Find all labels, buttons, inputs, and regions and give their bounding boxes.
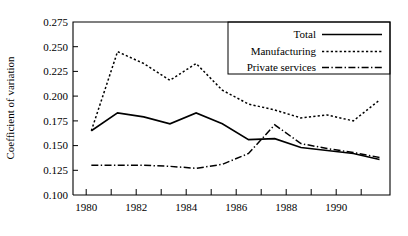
- y-tick-label: 0.100: [43, 189, 68, 201]
- legend-label-total: Total: [294, 28, 316, 40]
- data-series-group: [91, 52, 379, 169]
- y-tick-label: 0.125: [43, 164, 68, 176]
- y-axis-title: Coefficient of variation: [4, 56, 16, 160]
- series-line-manufacturing: [91, 52, 379, 131]
- y-tick-label: 0.175: [43, 115, 68, 127]
- line-chart: Coefficient of variation 0.100 0.125 0.1…: [0, 0, 408, 236]
- x-tick-label: 1982: [125, 201, 147, 213]
- y-tick-label: 0.225: [43, 65, 68, 77]
- y-tick-label: 0.200: [43, 90, 68, 102]
- y-tick-label: 0.250: [43, 41, 68, 53]
- x-tick-label: 1986: [225, 201, 248, 213]
- y-axis-ticks: [73, 47, 78, 171]
- x-axis-ticks: [86, 189, 361, 195]
- x-tick-label: 1988: [275, 201, 298, 213]
- legend-label-private-services: Private services: [247, 61, 316, 73]
- series-line-total: [91, 113, 379, 159]
- y-tick-label: 0.150: [43, 139, 68, 151]
- y-tick-label: 0.275: [43, 16, 68, 28]
- x-tick-label: 1984: [175, 201, 198, 213]
- chart-container: Coefficient of variation 0.100 0.125 0.1…: [0, 0, 408, 236]
- legend: Total Manufacturing Private services: [228, 22, 390, 74]
- y-axis-tick-labels: 0.100 0.125 0.150 0.175 0.200 0.225 0.25…: [43, 16, 68, 201]
- x-tick-label: 1980: [75, 201, 98, 213]
- legend-label-manufacturing: Manufacturing: [251, 45, 317, 57]
- plot-axes: [73, 22, 390, 195]
- x-tick-label: 1990: [325, 201, 348, 213]
- x-axis-tick-labels: 1980 1982 1984 1986 1988 1990: [75, 201, 348, 213]
